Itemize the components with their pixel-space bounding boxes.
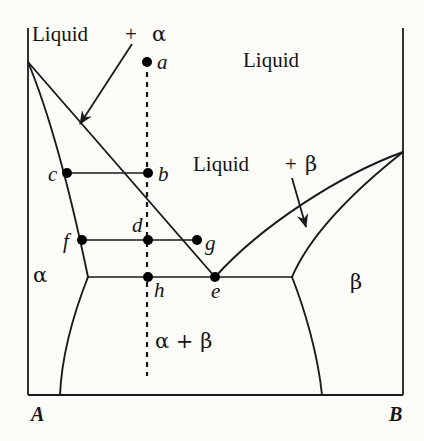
point-label-e: e bbox=[211, 281, 220, 302]
state-point-d bbox=[143, 235, 153, 245]
point-label-f: f bbox=[63, 231, 69, 252]
axis-label-component-b: B bbox=[389, 404, 402, 424]
phase-diagram-figure: Liquid + α Liquid Liquid + β α β α + β A… bbox=[0, 0, 424, 441]
state-point-f bbox=[77, 235, 87, 245]
state-point-c bbox=[62, 168, 72, 178]
solvus-curve-beta bbox=[292, 277, 322, 395]
region-label-liquid-alpha: Liquid bbox=[32, 24, 88, 45]
region-label-liquid-beta-plus: + bbox=[285, 154, 297, 175]
point-label-a: a bbox=[157, 52, 168, 73]
state-point-g bbox=[192, 235, 202, 245]
region-label-liquid-alpha-plus: + bbox=[125, 24, 137, 45]
region-label-liquid-alpha-phase: α bbox=[152, 24, 166, 45]
axis-label-component-a: A bbox=[31, 404, 44, 424]
point-label-h: h bbox=[154, 280, 165, 301]
solvus-curve-alpha bbox=[60, 277, 88, 395]
region-label-liquid-beta: Liquid bbox=[193, 154, 249, 175]
region-label-alpha-beta: α + β bbox=[155, 331, 212, 352]
region-label-alpha: α bbox=[33, 265, 47, 286]
state-point-h bbox=[143, 272, 153, 282]
solidus-curve-left bbox=[28, 62, 88, 277]
point-label-b: b bbox=[158, 164, 169, 185]
region-label-liquid-top: Liquid bbox=[243, 50, 299, 71]
region-label-beta: β bbox=[350, 272, 362, 293]
liquid-alpha-leader-arrow bbox=[80, 44, 132, 124]
point-label-c: c bbox=[48, 164, 57, 185]
point-label-g: g bbox=[205, 233, 216, 254]
state-point-a bbox=[142, 57, 152, 67]
point-label-d: d bbox=[132, 215, 143, 236]
state-point-b bbox=[143, 168, 153, 178]
region-label-liquid-beta-phase: β bbox=[305, 154, 317, 175]
phase-diagram-canvas bbox=[0, 0, 424, 441]
